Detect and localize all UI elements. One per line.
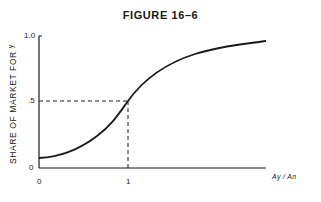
plot-area [0,0,321,202]
market-share-curve [39,41,266,158]
